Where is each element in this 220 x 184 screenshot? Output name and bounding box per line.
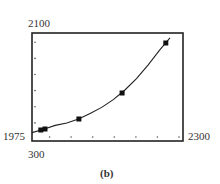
data-point (120, 91, 125, 96)
data-markers (38, 41, 168, 133)
y-tick-mark (34, 74, 36, 76)
x-tick-mark (92, 136, 94, 138)
x-tick-mark (49, 136, 51, 138)
x-tick-mark (157, 136, 159, 138)
data-point (43, 127, 48, 132)
y-tick-mark (34, 106, 36, 108)
y-tick-mark (34, 122, 36, 124)
y-tick-mark (34, 58, 36, 60)
x-tick-mark (135, 136, 137, 138)
x-tick-mark (70, 136, 72, 138)
y-tick-mark (34, 42, 36, 44)
plot-area (0, 0, 220, 184)
tick-marks (34, 42, 180, 138)
data-point (163, 41, 168, 46)
fitted-curve (32, 38, 170, 133)
data-point (76, 117, 81, 122)
y-tick-mark (34, 90, 36, 92)
x-tick-mark (114, 136, 116, 138)
x-tick-mark (178, 136, 180, 138)
